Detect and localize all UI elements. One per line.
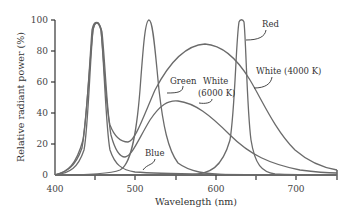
leader-white-4000 [254,77,272,88]
y-tick-20: 20 [37,139,49,149]
x-tick-600: 600 [207,184,224,194]
x-tick-500: 500 [126,184,143,194]
y-tick-40: 40 [37,108,49,118]
y-tick-labels: 100 80 60 40 20 0 [31,15,48,180]
curve-white-4000 [55,23,337,176]
leader-blue [143,159,155,170]
y-tick-60: 60 [37,77,49,87]
label-green: Green [170,76,197,86]
leader-white-6000 [199,99,212,103]
y-tick-100: 100 [31,15,48,25]
leader-red [246,30,266,40]
y-tick-0: 0 [42,170,48,180]
x-tick-labels: 400 500 600 700 [46,184,304,194]
x-tick-700: 700 [287,184,304,194]
x-axis-title: Wavelength (nm) [155,196,237,207]
spectral-power-chart: 100 80 60 40 20 0 400 500 600 700 Wavele… [0,0,357,217]
x-tick-400: 400 [46,184,63,194]
label-blue: Blue [145,148,164,158]
curve-green [55,20,337,175]
curve-red [55,20,337,175]
label-white-4000: White (4000 K) [256,66,321,76]
label-white-6000-line1: White [203,76,228,86]
label-white-6000-line2: (6000 K) [198,88,235,98]
y-tick-80: 80 [37,46,49,56]
label-red: Red [262,19,279,29]
leader-green [167,86,183,93]
y-axis-title: Relative radiant power (%) [15,32,26,162]
axes [51,20,337,180]
curves [55,20,337,175]
